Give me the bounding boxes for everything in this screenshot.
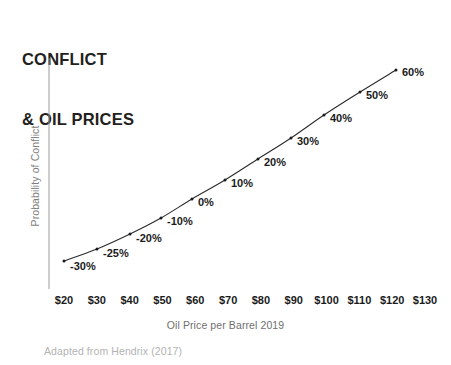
x-axis-tick-label: $120 xyxy=(380,294,404,306)
x-axis-tick-label: $90 xyxy=(285,294,303,306)
chart-container: CONFLICT & OIL PRICES Probability of Con… xyxy=(0,0,451,365)
data-point-marker xyxy=(191,198,194,201)
x-axis-tick-label: $100 xyxy=(314,294,338,306)
data-point-marker xyxy=(323,114,326,117)
x-axis-tick-label: $40 xyxy=(120,294,138,306)
x-axis-tick-label: $80 xyxy=(252,294,270,306)
data-point-marker xyxy=(257,158,260,161)
data-point-marker xyxy=(129,233,132,236)
x-axis-tick-label: $70 xyxy=(219,294,237,306)
y-axis-title: Probability of Conflict xyxy=(29,96,41,256)
source-note: Adapted from Hendrix (2017) xyxy=(44,345,182,357)
x-axis-tick-label: $130 xyxy=(413,294,437,306)
data-point-marker xyxy=(395,69,398,72)
x-axis-tick-label: $50 xyxy=(153,294,171,306)
x-axis-tick-labels: $20$30$40$50$60$70$80$90$100$110$120$130 xyxy=(0,294,451,310)
x-axis-tick-label: $60 xyxy=(186,294,204,306)
data-point-marker xyxy=(63,260,66,263)
x-axis-tick-label: $20 xyxy=(55,294,73,306)
data-point-marker xyxy=(96,248,99,251)
x-axis-tick-label: $110 xyxy=(347,294,371,306)
data-point-marker xyxy=(224,179,227,182)
data-point-marker xyxy=(290,137,293,140)
data-point-marker xyxy=(160,217,163,220)
data-point-markers xyxy=(63,69,398,263)
plot-area xyxy=(0,0,451,365)
trend-line xyxy=(64,70,396,261)
x-axis-title: Oil Price per Barrel 2019 xyxy=(0,319,451,331)
x-axis-tick-label: $30 xyxy=(88,294,106,306)
data-point-marker xyxy=(359,91,362,94)
